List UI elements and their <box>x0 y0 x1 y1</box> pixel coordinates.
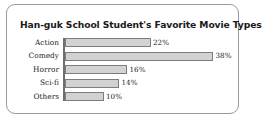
bar-value-label: 22% <box>151 38 169 47</box>
bar-others <box>65 92 104 101</box>
bar-chart-plot-area: Action 22% Comedy 38% Horror 16% Sci-fi <box>20 38 228 104</box>
bar-category-label: Horror <box>20 65 59 74</box>
bar-row: Sci-fi 14% <box>20 79 228 88</box>
bar-horror <box>65 65 128 74</box>
bar-category-label: Others <box>20 92 59 101</box>
bar-comedy <box>65 52 214 61</box>
bar-category-label: Sci-fi <box>20 78 59 87</box>
bar-value-label: 10% <box>104 92 122 101</box>
bar-track: 22% <box>65 38 229 47</box>
bar-category-label: Action <box>20 38 59 47</box>
chart-title: Han-guk School Student's Favorite Movie … <box>20 19 247 30</box>
bar-track: 14% <box>65 79 229 88</box>
bar-sci-fi <box>65 79 120 88</box>
bar-row: Action 22% <box>20 38 228 47</box>
bar-value-label: 38% <box>213 51 231 60</box>
chart-frame: Han-guk School Student's Favorite Movie … <box>6 4 239 114</box>
bar-value-label: 14% <box>119 78 137 87</box>
bar-category-label: Comedy <box>20 51 59 60</box>
bar-action <box>65 38 151 47</box>
bar-track: 38% <box>65 52 229 61</box>
bar-row: Horror 16% <box>20 65 228 74</box>
bar-track: 10% <box>65 92 229 101</box>
bar-value-label: 16% <box>127 65 145 74</box>
bar-row: Others 10% <box>20 92 228 101</box>
bar-row: Comedy 38% <box>20 52 228 61</box>
bar-track: 16% <box>65 65 229 74</box>
